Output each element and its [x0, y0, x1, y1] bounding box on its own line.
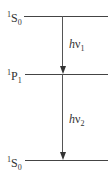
- transition-1-index: 1: [80, 44, 84, 53]
- label-middle-j: 1: [18, 76, 22, 85]
- level-top-1S0: [24, 16, 108, 17]
- label-top-j: 0: [18, 18, 22, 27]
- level-bottom-1S0: [25, 160, 108, 161]
- level-middle-1P1: [25, 74, 108, 75]
- transition-1-line: [62, 16, 63, 66]
- label-bottom-letter: S: [11, 156, 18, 170]
- label-top-letter: S: [11, 11, 18, 25]
- label-top-term: 1S0: [7, 9, 22, 29]
- label-middle-letter: P: [11, 69, 18, 83]
- label-bottom-term: 1S0: [7, 154, 22, 174]
- transition-1-arrowhead-icon: [60, 66, 66, 74]
- transition-2-label: hν2: [69, 113, 84, 130]
- transition-2-index: 2: [80, 119, 84, 128]
- transition-1-label: hν1: [69, 38, 84, 55]
- label-bottom-j: 0: [18, 163, 22, 172]
- label-middle-term: 1P1: [7, 67, 22, 87]
- transition-2-line: [62, 74, 63, 152]
- transition-2-arrowhead-icon: [60, 152, 66, 160]
